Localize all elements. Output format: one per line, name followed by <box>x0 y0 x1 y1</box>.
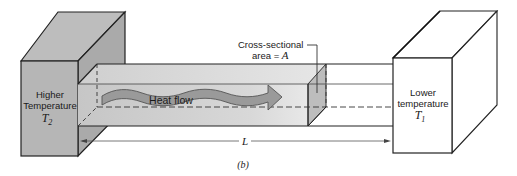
left-block-label-line2: Temperature <box>23 100 76 111</box>
right-block-label-line2: temperature <box>397 98 448 109</box>
conducting-bar: Heat flow <box>78 64 400 126</box>
length-label: L <box>241 135 248 147</box>
right-block-cold-reservoir <box>393 11 497 153</box>
right-block-label-line1: Lower <box>410 87 436 98</box>
length-dimension: L <box>80 135 391 147</box>
figure-caption: (b) <box>237 159 249 171</box>
left-block-label-line1: Higher <box>36 89 64 100</box>
heat-flow-label: Heat flow <box>149 94 193 106</box>
cross-section-label-line2: area = A <box>252 49 289 61</box>
heat-conduction-diagram: Heat flow Cross-sectional area = A L Hig… <box>0 0 517 176</box>
length-arrow-right-icon <box>384 139 391 143</box>
bar-top-face <box>78 64 326 84</box>
cross-section-label-line1: Cross-sectional <box>238 39 303 50</box>
